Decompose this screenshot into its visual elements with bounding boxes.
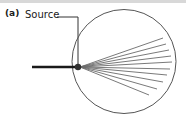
scattered-ray <box>80 38 163 67</box>
scattered-ray <box>80 67 149 95</box>
scattered-ray <box>80 44 166 67</box>
source-leader-group <box>57 17 78 64</box>
scattered-ray <box>80 67 163 82</box>
figure-panel-a: (a) Source <box>0 0 186 126</box>
source-leader-line <box>57 17 78 64</box>
diagram-canvas <box>0 0 186 126</box>
source-point <box>75 64 81 70</box>
scattered-ray <box>80 56 171 67</box>
scattered-rays-group <box>80 38 172 95</box>
